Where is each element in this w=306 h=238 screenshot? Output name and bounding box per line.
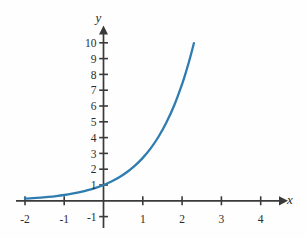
x-tick-label: 4: [258, 213, 264, 225]
y-tick-label: 1: [91, 179, 97, 191]
y-tick-label: 5: [91, 116, 97, 128]
x-tick-label: 1: [140, 213, 146, 225]
x-tick-label: 3: [219, 213, 225, 225]
y-tick-label: 2: [91, 163, 97, 175]
x-tick-label: 2: [179, 213, 185, 225]
y-tick-label: 10: [85, 37, 97, 49]
y-tick-label: 3: [91, 148, 97, 160]
graph-figure: -2 -1 1 2 3 4 -1 1 2 3 4 5 6 7 8 9 10 x …: [0, 0, 306, 238]
y-tick-label: 6: [91, 100, 97, 112]
y-axis-label: y: [94, 10, 102, 25]
y-tick-label: -1: [87, 211, 97, 223]
y-tick-label: 7: [91, 84, 97, 96]
x-tick-label: -2: [20, 213, 30, 225]
x-axis-label: x: [286, 192, 293, 207]
x-tick-label: -1: [59, 213, 69, 225]
y-tick-label: 9: [91, 53, 97, 65]
y-tick-label: 8: [91, 69, 97, 81]
y-tick-label: 4: [91, 132, 97, 144]
exponential-curve: [25, 43, 194, 198]
y-axis-arrow-icon: [99, 26, 108, 35]
exponential-function-plot: -2 -1 1 2 3 4 -1 1 2 3 4 5 6 7 8 9 10 x …: [0, 0, 306, 238]
